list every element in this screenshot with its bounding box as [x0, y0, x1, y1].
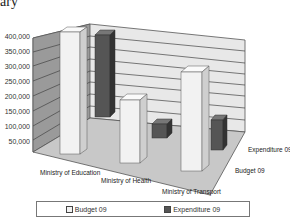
bar-transport-budget[interactable]	[181, 72, 202, 171]
svg-text:Ministry of Education: Ministry of Education	[40, 169, 101, 177]
svg-text:150,000: 150,000	[5, 108, 30, 115]
svg-text:Expenditure 09: Expenditure 09	[248, 146, 290, 154]
chart-legend: Budget 09 Expenditure 09	[36, 201, 250, 217]
legend-label-expenditure: Expenditure 09	[173, 206, 220, 213]
svg-text:Ministry of Transport: Ministry of Transport	[162, 188, 221, 196]
depth-axis: Expenditure 09 Budget 09	[235, 146, 290, 175]
svg-text:50,000: 50,000	[9, 138, 31, 145]
legend-item-expenditure[interactable]: Expenditure 09	[164, 206, 220, 213]
bar-health-budget[interactable]	[120, 100, 140, 163]
svg-text:250,000: 250,000	[5, 78, 30, 85]
bar-education-expenditure[interactable]	[95, 35, 110, 117]
svg-text:300,000: 300,000	[5, 63, 30, 70]
bar-health-expenditure[interactable]	[152, 124, 167, 138]
svg-text:350,000: 350,000	[5, 48, 30, 55]
svg-text:200,000: 200,000	[5, 93, 30, 100]
legend-swatch-budget	[66, 206, 73, 213]
svg-text:Ministry of Health: Ministry of Health	[101, 177, 152, 185]
legend-label-budget: Budget 09	[75, 206, 107, 213]
legend-item-budget[interactable]: Budget 09	[66, 206, 107, 213]
chart-3d-column: 50,000 100,000 150,000 200,000 250,000 3…	[0, 0, 290, 221]
svg-text:Budget 09: Budget 09	[235, 167, 265, 175]
svg-text:100,000: 100,000	[5, 123, 30, 130]
bar-education-budget[interactable]	[60, 32, 80, 154]
y-axis: 50,000 100,000 150,000 200,000 250,000 3…	[5, 33, 30, 145]
legend-swatch-expenditure	[164, 206, 171, 213]
svg-text:400,000: 400,000	[5, 33, 30, 40]
bar-transport-expenditure[interactable]	[211, 120, 223, 150]
